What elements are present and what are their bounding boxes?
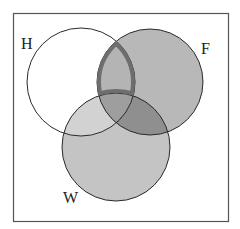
- label-f: F: [201, 40, 210, 57]
- label-h: H: [21, 35, 33, 52]
- label-w: W: [63, 189, 79, 206]
- venn-diagram: H F W: [0, 0, 240, 229]
